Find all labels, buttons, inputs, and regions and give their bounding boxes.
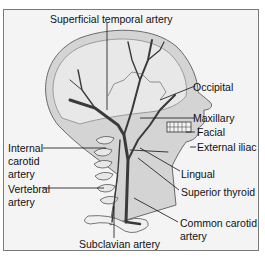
label-external-iliac: External iliac bbox=[197, 141, 257, 153]
label-facial: Facial bbox=[197, 126, 225, 138]
label-superficial-temporal-artery: Superficial temporal artery bbox=[50, 13, 173, 25]
label-subclavian-artery: Subclavian artery bbox=[79, 238, 160, 250]
label-maxillary: Maxillary bbox=[193, 112, 234, 124]
label-superior-thyroid: Superior thyroid bbox=[181, 186, 255, 198]
label-internal-carotid-line3: artery bbox=[8, 168, 35, 180]
label-lingual: Lingual bbox=[181, 168, 215, 180]
label-vertebral-line1: Vertebral bbox=[8, 183, 50, 195]
label-common-carotid-line2: artery bbox=[180, 230, 207, 242]
label-internal-carotid-line1: Internal bbox=[8, 142, 43, 154]
label-common-carotid-line1: Common carotid bbox=[180, 217, 257, 229]
label-occipital: Occipital bbox=[193, 81, 233, 93]
label-vertebral-line2: artery bbox=[8, 196, 35, 208]
label-internal-carotid-line2: carotid bbox=[8, 155, 40, 167]
